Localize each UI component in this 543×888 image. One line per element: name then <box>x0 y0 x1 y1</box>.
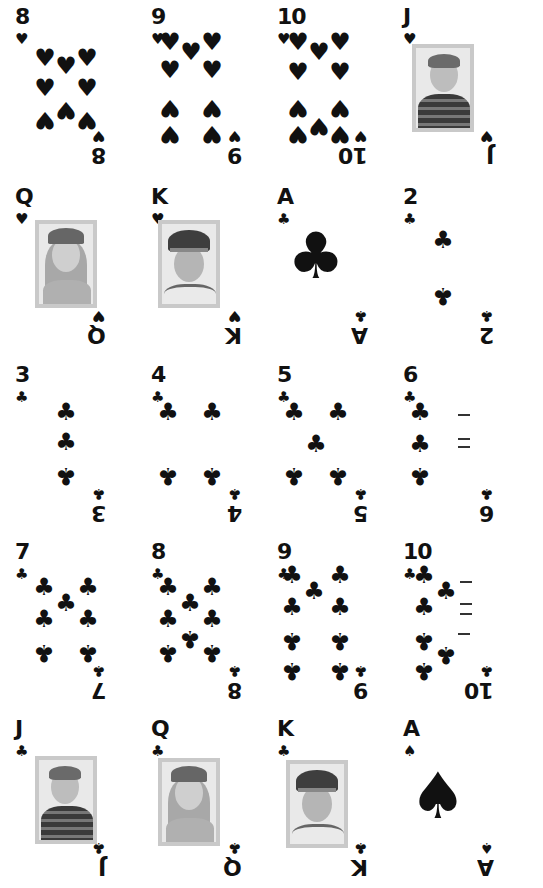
rank-label: A <box>277 186 293 208</box>
rank-label: 8 <box>15 6 29 28</box>
card-10-clubs[interactable]: 10 ♣ ♣ ♣ ♣ ♣ ♣ ♣ ♣ 10 <box>388 535 516 711</box>
club-icon: ♣ <box>54 464 78 488</box>
rank-label: A <box>478 856 494 878</box>
rank-label: 8 <box>92 144 106 166</box>
card-9-hearts[interactable]: 9 ♥ ♥ ♥ ♥ ♥ ♥ ♥ ♥ ♥ ♥ ♥ 9 <box>136 0 264 176</box>
heart-icon: ♥ <box>328 96 352 120</box>
club-icon: ♣ <box>412 659 436 683</box>
club-icon: ♣ <box>92 486 105 501</box>
rank-label: 5 <box>354 502 368 524</box>
portrait-girl <box>158 758 220 846</box>
club-icon: ♣ <box>354 840 367 855</box>
club-icon: ♣ <box>15 390 28 405</box>
rank-label: 3 <box>92 502 106 524</box>
rank-label: 7 <box>92 679 106 701</box>
spade-icon: ♠ <box>480 840 493 855</box>
club-icon: ♣ <box>200 400 224 424</box>
rank-label: J <box>99 856 106 878</box>
card-ace-clubs[interactable]: A ♣ ♣ ♣ A <box>262 180 390 356</box>
rank-label: 9 <box>354 679 368 701</box>
heart-icon: ♥ <box>92 308 105 323</box>
club-icon: ♣ <box>408 432 432 456</box>
card-8-hearts[interactable]: 8 ♥ ♥ ♥ ♥ ♥ ♥ ♥ ♥ ♥ ♥ 8 <box>0 0 128 176</box>
card-7-clubs[interactable]: 7 ♣ ♣ ♣ ♣ ♣ ♣ ♣ ♣ ♣ 7 <box>0 535 128 711</box>
card-king-hearts[interactable]: K ♥ ♥ K <box>136 180 264 356</box>
club-icon: ♣ <box>408 400 432 424</box>
rank-label: 3 <box>15 364 29 386</box>
rank-label: A <box>352 324 368 346</box>
club-icon: ♣ <box>156 575 180 599</box>
card-5-clubs[interactable]: 5 ♣ ♣ ♣ ♣ ♣ ♣ ♣ 5 <box>262 358 390 534</box>
card-ace-spades[interactable]: A ♠ ♠ ♠ A <box>388 712 516 888</box>
club-icon: ♣ <box>228 840 241 855</box>
heart-icon: ♥ <box>33 76 57 100</box>
card-9-clubs[interactable]: 9 ♣ ♣ ♣ ♣ ♣ ♣ ♣ ♣ ♣ ♣ ♣ 9 <box>262 535 390 711</box>
card-king-clubs[interactable]: K ♣ ♣ K <box>262 712 390 888</box>
portrait-girl <box>35 220 97 308</box>
club-icon: ♣ <box>412 563 436 587</box>
club-icon: ♣ <box>32 641 56 665</box>
club-icon: ♣ <box>302 579 326 603</box>
portrait-pilot <box>286 760 348 848</box>
spade-icon: ♠ <box>408 764 468 828</box>
club-icon: ♣ <box>403 212 416 227</box>
card-8-clubs[interactable]: 8 ♣ ♣ ♣ ♣ ♣ ♣ ♣ ♣ ♣ ♣ 8 <box>136 535 264 711</box>
rank-label: J <box>487 144 494 166</box>
club-icon: ♣ <box>282 464 306 488</box>
club-icon: ♣ <box>76 607 100 631</box>
club-icon: ♣ <box>54 400 78 424</box>
rank-label: Q <box>15 186 33 208</box>
rank-label: 2 <box>480 324 494 346</box>
rank-label: 8 <box>151 541 165 563</box>
card-jack-clubs[interactable]: J ♣ ♣ J <box>0 712 128 888</box>
card-jack-hearts[interactable]: J ♥ ♥ J <box>388 0 516 176</box>
card-4-clubs[interactable]: 4 ♣ ♣ ♣ ♣ ♣ ♣ 4 <box>136 358 264 534</box>
club-icon: ♣ <box>280 595 304 619</box>
club-icon: ♣ <box>32 575 56 599</box>
club-icon: ♣ <box>200 575 224 599</box>
club-icon: ♣ <box>434 643 458 667</box>
club-icon: ♣ <box>412 595 436 619</box>
club-icon: ♣ <box>408 464 432 488</box>
club-icon: ♣ <box>280 659 304 683</box>
card-2-clubs[interactable]: 2 ♣ ♣ ♣ ♣ 2 <box>388 180 516 356</box>
card-queen-hearts[interactable]: Q ♥ ♥ Q <box>0 180 128 356</box>
club-icon: ♣ <box>156 464 180 488</box>
rank-label: Q <box>88 324 106 346</box>
heart-icon: ♥ <box>15 212 28 227</box>
rank-label: 10 <box>277 6 306 28</box>
heart-icon: ♥ <box>286 122 310 146</box>
club-icon: ♣ <box>15 567 28 582</box>
heart-icon: ♥ <box>200 30 224 54</box>
club-icon: ♣ <box>431 228 455 252</box>
club-icon: ♣ <box>480 663 493 678</box>
rank-label: 9 <box>228 144 242 166</box>
rank-label: 10 <box>465 679 494 701</box>
club-icon: ♣ <box>326 464 350 488</box>
club-icon: ♣ <box>280 563 304 587</box>
club-icon: ♣ <box>200 464 224 488</box>
rank-label: 2 <box>403 186 417 208</box>
club-icon: ♣ <box>286 224 346 288</box>
club-icon: ♣ <box>92 840 105 855</box>
rank-label: Q <box>224 856 242 878</box>
heart-icon: ♥ <box>328 60 352 84</box>
club-icon: ♣ <box>354 486 367 501</box>
club-icon: ♣ <box>434 579 458 603</box>
portrait-pilot <box>158 220 220 308</box>
club-icon: ♣ <box>178 591 202 615</box>
heart-icon: ♥ <box>480 128 493 143</box>
card-queen-clubs[interactable]: Q ♣ ♣ Q <box>136 712 264 888</box>
club-icon: ♣ <box>151 744 164 759</box>
card-sheet: 8 ♥ ♥ ♥ ♥ ♥ ♥ ♥ ♥ ♥ ♥ 8 9 ♥ ♥ ♥ ♥ ♥ ♥ ♥ … <box>0 0 543 888</box>
card-6-clubs[interactable]: 6 ♣ ♣ ♣ ♣ ♣ 6 <box>388 358 516 534</box>
heart-icon: ♥ <box>328 30 352 54</box>
club-icon: ♣ <box>328 595 352 619</box>
heart-icon: ♥ <box>354 128 367 143</box>
card-3-clubs[interactable]: 3 ♣ ♣ ♣ ♣ ♣ 3 <box>0 358 128 534</box>
rank-label: 9 <box>151 6 165 28</box>
rank-label: J <box>15 718 22 740</box>
card-10-hearts[interactable]: 10 ♥ ♥ ♥ ♥ ♥ ♥ ♥ ♥ ♥ ♥ ♥ ♥ 10 <box>262 0 390 176</box>
rank-label: 10 <box>403 541 432 563</box>
rank-label: 6 <box>480 502 494 524</box>
